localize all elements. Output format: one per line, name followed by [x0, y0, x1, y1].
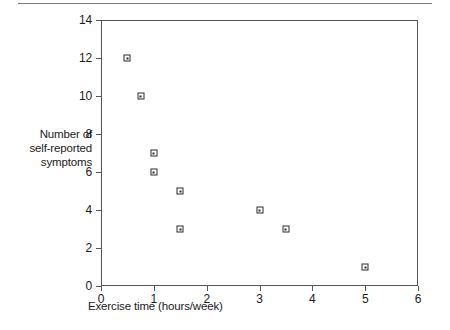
y-axis-tick: [96, 172, 101, 173]
x-axis-tick: [365, 286, 366, 291]
y-axis-tick-label: 2: [60, 242, 92, 254]
x-axis-tick: [418, 286, 419, 291]
data-point-marker: [362, 264, 369, 271]
x-axis-tick-label: 4: [297, 292, 327, 306]
x-axis-tick: [101, 286, 102, 291]
data-point-marker: [150, 150, 157, 157]
y-axis-title-line-1: Number of: [0, 127, 92, 141]
y-axis-tick-label: 0: [60, 280, 92, 292]
data-point-marker: [177, 188, 184, 195]
y-axis-title: Number of self-reported symptoms: [0, 127, 92, 169]
y-axis-tick: [96, 20, 101, 21]
y-axis-tick: [96, 134, 101, 135]
plot-area-frame: [101, 20, 418, 286]
x-axis-tick-label-text: 5: [350, 292, 380, 306]
x-axis-tick: [260, 286, 261, 291]
y-axis-tick-label-text: 0: [60, 280, 92, 292]
y-axis-tick-label-text: 4: [60, 204, 92, 216]
x-axis-tick-label-text: 6: [403, 292, 433, 306]
data-point-marker: [177, 226, 184, 233]
x-axis-tick-label: 3: [245, 292, 275, 306]
x-axis-tick-label: 5: [350, 292, 380, 306]
data-point-marker: [137, 93, 144, 100]
x-axis-title: Exercise time (hours/week): [88, 299, 223, 313]
y-axis-tick-label-text: 2: [60, 242, 92, 254]
x-axis-tick-label: 6: [403, 292, 433, 306]
y-axis-title-line-3: symptoms: [0, 155, 92, 169]
y-axis-tick-label-text: 12: [60, 52, 92, 64]
data-point-marker: [150, 169, 157, 176]
x-axis-tick: [154, 286, 155, 291]
y-axis-tick-label: 14: [60, 14, 92, 26]
y-axis-title-line-2: self-reported: [0, 141, 92, 155]
y-axis-tick-label: 12: [60, 52, 92, 64]
y-axis-tick: [96, 58, 101, 59]
x-axis-tick-label-text: 4: [297, 292, 327, 306]
x-axis-tick-label-text: 3: [245, 292, 275, 306]
y-axis-tick: [96, 210, 101, 211]
data-point-marker: [282, 226, 289, 233]
x-axis-tick: [207, 286, 208, 291]
y-axis-tick-label: 4: [60, 204, 92, 216]
y-axis-tick: [96, 96, 101, 97]
y-axis-tick-label: 10: [60, 90, 92, 102]
x-axis-tick: [312, 286, 313, 291]
scatter-plot-figure: 02468101214 0123456 Number of self-repor…: [0, 0, 450, 330]
y-axis-tick: [96, 248, 101, 249]
y-axis-tick-label-text: 14: [60, 14, 92, 26]
data-point-marker: [256, 207, 263, 214]
top-horizontal-rule: [18, 3, 432, 4]
data-point-marker: [124, 55, 131, 62]
y-axis-tick-label-text: 10: [60, 90, 92, 102]
